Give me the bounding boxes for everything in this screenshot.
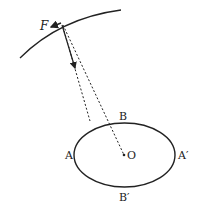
center-point — [123, 154, 126, 157]
label-O: O — [127, 149, 136, 162]
label-F: F — [39, 19, 49, 33]
diagram-canvas: F O A A′ B B′ — [0, 0, 200, 212]
dotted-line-to-center — [63, 25, 124, 155]
label-B-prime: B′ — [119, 191, 130, 204]
label-A-prime: A′ — [177, 149, 189, 162]
label-B: B — [119, 110, 127, 123]
force-arrow — [51, 23, 61, 27]
curved-path — [20, 10, 121, 58]
label-A: A — [64, 149, 74, 162]
